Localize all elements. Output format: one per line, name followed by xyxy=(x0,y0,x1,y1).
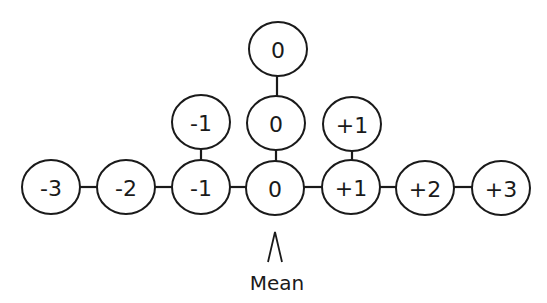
node-plus-1: +1 xyxy=(322,160,380,214)
node-minus-1: -1 xyxy=(172,160,230,214)
node-label: -3 xyxy=(40,176,62,201)
node-zero-mean: 0 xyxy=(246,161,304,215)
node-label: +2 xyxy=(409,177,441,202)
node-label: 0 xyxy=(268,177,282,202)
mean-distribution-diagram: -3 -2 -1 0 +1 +2 +3 -1 0 +1 0 xyxy=(0,0,547,303)
node-label: 0 xyxy=(271,38,285,63)
node-label: -2 xyxy=(115,176,137,201)
node-label: 0 xyxy=(269,112,283,137)
node-label: -1 xyxy=(190,176,212,201)
node-top-zero: 0 xyxy=(249,22,307,76)
node-middle-plus-1: +1 xyxy=(323,97,381,151)
node-minus-2: -2 xyxy=(97,160,155,214)
node-label: -1 xyxy=(190,111,212,136)
node-middle-minus-1: -1 xyxy=(172,95,230,149)
node-plus-3: +3 xyxy=(472,161,530,215)
node-label: +1 xyxy=(336,113,368,138)
caret-up-icon xyxy=(268,232,282,262)
node-minus-3: -3 xyxy=(22,160,80,214)
node-middle-zero: 0 xyxy=(247,96,305,150)
mean-label: Mean xyxy=(250,271,305,295)
node-label: +1 xyxy=(335,176,367,201)
node-plus-2: +2 xyxy=(396,161,454,215)
node-label: +3 xyxy=(485,177,517,202)
